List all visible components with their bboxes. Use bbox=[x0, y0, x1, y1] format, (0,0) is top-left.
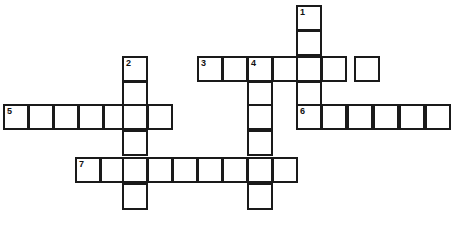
cell-letter bbox=[298, 58, 320, 80]
cell-r4-c16[interactable] bbox=[425, 104, 451, 130]
cell-letter bbox=[249, 58, 271, 80]
cell-r7-c9[interactable] bbox=[247, 183, 273, 210]
cell-letter bbox=[298, 32, 320, 54]
cell-r4-c15[interactable] bbox=[399, 104, 425, 130]
cell-letter bbox=[274, 58, 296, 80]
cell-letter bbox=[124, 132, 146, 154]
cell-letter bbox=[249, 106, 271, 128]
cell-r2-c11[interactable] bbox=[296, 56, 322, 82]
cell-r4-c1[interactable] bbox=[28, 104, 54, 130]
cell-r4-c5[interactable] bbox=[122, 104, 148, 130]
cell-letter bbox=[124, 185, 146, 208]
cell-r2-c12[interactable] bbox=[321, 56, 347, 82]
cell-letter bbox=[30, 106, 52, 128]
cell-letter bbox=[199, 159, 221, 181]
cell-letter bbox=[224, 159, 246, 181]
cell-r2-c7[interactable]: 3 bbox=[197, 56, 223, 82]
cell-letter bbox=[124, 106, 146, 128]
cell-r4-c2[interactable] bbox=[53, 104, 79, 130]
cell-letter bbox=[77, 159, 99, 181]
cell-letter bbox=[375, 106, 397, 128]
cell-r0-c11[interactable]: 1 bbox=[296, 5, 322, 31]
cell-letter bbox=[5, 106, 27, 128]
cell-letter bbox=[124, 159, 146, 181]
cell-letter bbox=[323, 106, 345, 128]
cell-r2-c8[interactable] bbox=[222, 56, 248, 82]
cell-r4-c0[interactable]: 5 bbox=[3, 104, 29, 130]
cell-letter bbox=[249, 83, 271, 105]
cell-r2-c13[interactable] bbox=[354, 56, 380, 82]
cell-r5-c4[interactable] bbox=[122, 130, 148, 156]
cell-r1-c11[interactable] bbox=[296, 30, 322, 56]
cell-letter bbox=[224, 58, 246, 80]
cell-r4-c6[interactable] bbox=[147, 104, 173, 130]
cell-letter bbox=[149, 106, 171, 128]
cell-letter bbox=[174, 159, 196, 181]
cell-r6-c9[interactable] bbox=[247, 157, 273, 183]
cell-letter bbox=[323, 58, 345, 80]
cell-r2-c9[interactable]: 4 bbox=[247, 56, 273, 82]
cell-letter bbox=[80, 106, 102, 128]
cell-r6-c8[interactable] bbox=[222, 157, 248, 183]
cell-letter bbox=[124, 58, 146, 80]
cell-r4-c12[interactable] bbox=[321, 104, 347, 130]
cell-letter bbox=[427, 106, 449, 128]
cell-r6-c6[interactable] bbox=[172, 157, 198, 183]
cell-letter bbox=[249, 185, 271, 208]
cell-letter bbox=[401, 106, 423, 128]
cell-letter bbox=[55, 106, 77, 128]
cell-letter bbox=[274, 159, 296, 181]
cell-letter bbox=[298, 7, 320, 29]
cell-r7-c4[interactable] bbox=[122, 183, 148, 210]
cell-r6-c7[interactable] bbox=[197, 157, 223, 183]
crossword-puzzle: 1234567 bbox=[0, 0, 452, 226]
cell-r4-c11[interactable]: 6 bbox=[296, 104, 322, 130]
cell-letter bbox=[124, 83, 146, 105]
cell-letter bbox=[349, 106, 371, 128]
cell-letter bbox=[102, 159, 124, 181]
cell-letter bbox=[298, 106, 320, 128]
cell-letter bbox=[249, 159, 271, 181]
cell-letter bbox=[298, 83, 320, 105]
cell-r2-c4[interactable]: 2 bbox=[122, 56, 148, 82]
cell-letter bbox=[149, 159, 171, 181]
cell-letter bbox=[199, 58, 221, 80]
cell-r4-c9[interactable] bbox=[247, 104, 273, 130]
cell-r4-c14[interactable] bbox=[373, 104, 399, 130]
cell-r6-c5[interactable] bbox=[147, 157, 173, 183]
cell-r5-c9[interactable] bbox=[247, 130, 273, 156]
cell-r6-c2[interactable]: 7 bbox=[75, 157, 101, 183]
cell-r6-c4[interactable] bbox=[122, 157, 148, 183]
cell-r4-c13[interactable] bbox=[347, 104, 373, 130]
cell-r4-c3[interactable] bbox=[78, 104, 104, 130]
cell-r2-c10[interactable] bbox=[272, 56, 298, 82]
cell-letter bbox=[356, 58, 378, 80]
cell-r6-c10[interactable] bbox=[272, 157, 298, 183]
cell-letter bbox=[249, 132, 271, 154]
